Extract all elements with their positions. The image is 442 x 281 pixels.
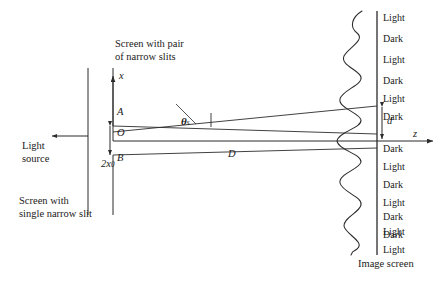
light-source-label-line1: Light — [22, 140, 45, 152]
fringe-label-below-0: Dark — [383, 143, 403, 155]
ray-theta-direction — [113, 106, 377, 132]
light-source-label-line2: source — [22, 153, 49, 165]
fringe-label-below-7: Light — [383, 244, 405, 256]
fringe-label-below-1: Light — [383, 161, 405, 173]
double-slit-caption-line2: of narrow slits — [115, 51, 176, 63]
fringe-label-above-4: Light — [383, 93, 405, 105]
z-axis-label: z — [413, 128, 417, 140]
fringe-label-above-3: Dark — [383, 75, 403, 87]
slit-separation-symbol: 2x — [101, 158, 111, 169]
fringe-label-above-1: Dark — [383, 33, 403, 45]
slit-separation-label: 2x0 — [85, 134, 115, 191]
fringe-label-below-4: Dark — [383, 211, 403, 223]
fringe-label-above-0: Light — [383, 12, 405, 24]
distance-D-label: D — [228, 148, 236, 160]
slit-O-label: O — [117, 127, 125, 139]
x-axis-label: x — [119, 70, 124, 82]
slit-A-label: A — [117, 106, 123, 118]
fringe-label-above-5: Dark — [383, 111, 403, 123]
double-slit-caption-line1: Screen with pair — [115, 38, 184, 50]
theta-label: θs — [165, 92, 190, 149]
fringe-label-below-6: Dark — [383, 229, 403, 241]
ray-from-slit-A — [113, 126, 377, 134]
fringe-label-above-2: Light — [383, 54, 405, 66]
single-slit-caption-line2: single narrow slit — [19, 208, 92, 220]
slit-separation-subscript: 0 — [111, 161, 115, 169]
single-slit-caption-line1: Screen with — [19, 195, 69, 207]
slit-B-label: B — [117, 152, 123, 164]
young-double-slit-figure: Screen with pair of narrow slits Screen … — [0, 0, 442, 281]
diagram-canvas — [0, 0, 442, 281]
image-screen-caption: Image screen — [358, 258, 414, 270]
fringe-label-below-2: Dark — [383, 179, 403, 191]
theta-subscript: s — [187, 119, 190, 127]
fringe-label-below-3: Light — [383, 197, 405, 209]
ray-from-slit-B — [113, 148, 377, 155]
